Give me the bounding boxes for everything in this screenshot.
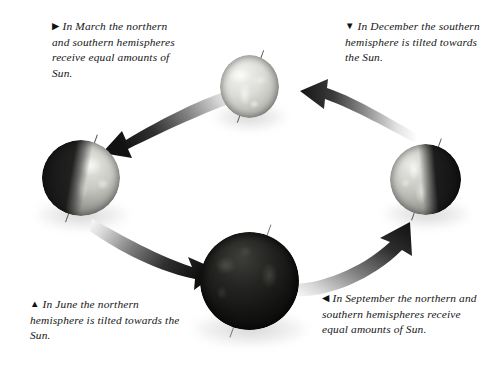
caption-september-text: In September the northern and southern h… xyxy=(322,292,477,335)
caption-march-text: In March the northern and southern hemis… xyxy=(52,20,175,79)
globe-limb-september xyxy=(200,232,299,330)
globe-limb-december xyxy=(390,144,461,215)
triangle-left-marker: ◀ xyxy=(322,291,329,306)
globe-limb-june xyxy=(42,140,120,216)
caption-june-text: In June the northern hemisphere is tilte… xyxy=(30,298,180,341)
globe-december xyxy=(390,144,461,215)
globe-september xyxy=(200,232,299,330)
triangle-right-marker: ▶ xyxy=(52,19,59,34)
caption-december-text: In December the southern hemisphere is t… xyxy=(345,20,480,63)
globe-june xyxy=(42,140,120,216)
caption-september: ◀In September the northern and southern … xyxy=(322,291,477,338)
caption-december: ▼In December the southern hemisphere is … xyxy=(345,19,490,66)
triangle-up-marker: ▲ xyxy=(30,297,40,312)
caption-march: ▶In March the northern and southern hemi… xyxy=(52,19,182,81)
seasons-diagram: ▶In March the northern and southern hemi… xyxy=(0,0,503,387)
caption-june: ▲In June the northern hemisphere is tilt… xyxy=(30,297,180,344)
globe-march xyxy=(220,55,279,118)
globe-limb-march xyxy=(220,55,279,118)
triangle-down-marker: ▼ xyxy=(345,19,355,34)
